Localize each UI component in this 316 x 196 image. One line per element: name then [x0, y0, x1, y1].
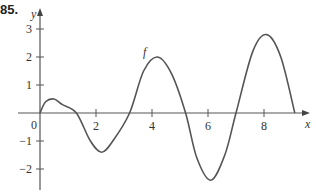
y-tick-label: 2	[26, 50, 32, 64]
x-axis-label: x	[304, 117, 311, 131]
y-tick-label: −1	[19, 134, 32, 148]
x-tick-label: 4	[149, 119, 155, 133]
y-axis-label: y	[30, 7, 37, 21]
function-graph: xy0 2468321−1−2 f	[0, 0, 316, 196]
y-tick-label: 3	[26, 22, 32, 36]
curve-f	[40, 34, 295, 180]
x-tick-label: 2	[93, 119, 99, 133]
y-tick-label: 1	[26, 78, 32, 92]
curve-label: f	[143, 45, 148, 59]
origin-label: 0	[31, 118, 37, 132]
x-tick-label: 6	[205, 119, 211, 133]
y-tick-label: −2	[19, 162, 32, 176]
x-axis-arrow-icon	[302, 110, 310, 116]
x-tick-label: 8	[261, 119, 267, 133]
y-axis-arrow-icon	[37, 8, 43, 16]
